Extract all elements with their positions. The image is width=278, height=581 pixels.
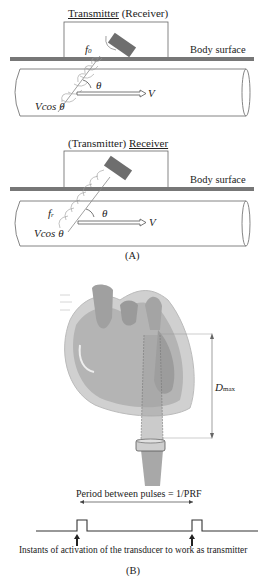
period-label: Period between pulses = 1/PRF	[76, 489, 202, 499]
body-surface-line	[10, 57, 254, 61]
body-surface-label: Body surface	[190, 175, 246, 186]
activation-label: Instants of activation of the transducer…	[19, 546, 247, 555]
transducer-icon	[104, 156, 132, 181]
velocity-arrow-icon	[78, 219, 146, 226]
body-surface-line	[10, 187, 254, 191]
vessel-opening	[242, 201, 250, 246]
panel-a-caption: (A)	[125, 251, 140, 262]
velocity-label: V	[149, 217, 156, 228]
velocity-component-label: Vcos θ	[35, 101, 65, 112]
transmitter-title: Transmitter (Receiver)	[68, 8, 168, 19]
depth-max-label: Dmax	[215, 382, 235, 393]
received-frequency-label: fr	[48, 208, 54, 219]
velocity-arrow-icon	[77, 90, 146, 97]
pulse-train	[36, 500, 258, 546]
angle-label: θ	[102, 208, 107, 219]
angle-arc-icon	[86, 209, 94, 217]
vessel-opening	[242, 69, 250, 116]
angle-arc-icon	[83, 80, 91, 88]
velocity-label: V	[148, 88, 155, 99]
panel-b-caption: (B)	[126, 566, 140, 577]
emitted-frequency-label: f0	[85, 44, 92, 55]
probe-handle	[141, 450, 163, 486]
body-surface-label: Body surface	[190, 45, 246, 56]
receiver-title: (Transmitter) Receiver	[68, 138, 168, 149]
velocity-component-label: Vcos θ	[34, 228, 64, 239]
transducer-icon	[108, 33, 136, 58]
pulse-waveform	[36, 520, 258, 531]
angle-label: θ	[96, 80, 101, 91]
heart-illustration	[60, 284, 194, 416]
